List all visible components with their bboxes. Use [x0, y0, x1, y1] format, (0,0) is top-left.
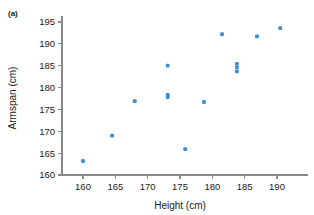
data-point — [183, 147, 187, 151]
x-tick-label: 170 — [140, 181, 156, 192]
x-tick-label: 165 — [107, 181, 123, 192]
x-tick-label: 180 — [204, 181, 220, 192]
y-tick-label: 160 — [39, 169, 55, 180]
x-axis-title: Height (cm) — [154, 200, 206, 211]
data-point — [202, 100, 206, 104]
data-point — [255, 35, 259, 39]
y-tick-label: 185 — [39, 60, 55, 71]
data-point — [220, 32, 224, 36]
y-tick-label: 190 — [39, 38, 55, 49]
y-tick-label: 175 — [39, 104, 55, 115]
data-point — [235, 70, 239, 74]
data-point — [81, 159, 85, 163]
x-tick-label: 190 — [269, 181, 285, 192]
data-points-layer — [81, 26, 282, 163]
x-tick-label: 160 — [75, 181, 91, 192]
x-tick-label: 185 — [237, 181, 253, 192]
y-axis-title: Armspan (cm) — [7, 67, 18, 130]
x-axis: 160165170175180185190 — [62, 175, 308, 192]
y-tick-label: 180 — [39, 82, 55, 93]
data-point — [278, 26, 282, 30]
y-tick-label: 165 — [39, 148, 55, 159]
scatter-plot-canvas: 160165170175180185190195 160165170175180… — [0, 0, 314, 215]
y-tick-label: 170 — [39, 126, 55, 137]
scatter-plot-figure: (a) 160165170175180185190195 16016517017… — [0, 0, 314, 215]
data-point — [110, 134, 114, 138]
data-point — [166, 64, 170, 68]
x-tick-label: 175 — [172, 181, 188, 192]
data-point — [166, 95, 170, 99]
data-point — [133, 99, 137, 103]
data-point — [235, 66, 239, 70]
data-point — [235, 62, 239, 66]
y-tick-label: 195 — [39, 16, 55, 27]
y-axis: 160165170175180185190195 — [39, 16, 62, 180]
